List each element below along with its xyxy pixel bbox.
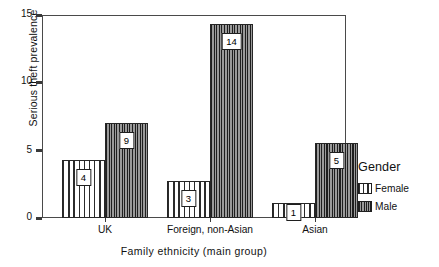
bar-chart: Serious theft prevalence 15 10 5 0 4 9 3… xyxy=(0,0,439,267)
y-tick-label-15: 15 xyxy=(21,8,32,19)
bar-uk-male: 9 xyxy=(105,123,148,218)
x-tick-label-uk: UK xyxy=(98,224,112,235)
y-tick-label-0: 0 xyxy=(26,211,32,222)
bar-value-asian-female: 1 xyxy=(286,204,301,221)
bar-uk-female: 4 xyxy=(62,160,105,218)
y-tick-5: 5 xyxy=(0,151,42,152)
y-tick-15: 15 xyxy=(0,15,42,16)
legend-title: Gender xyxy=(358,160,438,174)
bar-asian-female: 1 xyxy=(272,203,315,218)
bar-value-asian-male: 5 xyxy=(329,152,344,169)
x-axis-label: Family ethnicity (main group) xyxy=(42,245,346,257)
legend-item-male: Male xyxy=(358,201,438,212)
bar-value-uk-female: 4 xyxy=(76,169,91,186)
x-tick-asian xyxy=(315,218,316,222)
y-tick-10: 10 xyxy=(0,82,42,83)
bar-foreign-male: 14 xyxy=(210,24,253,218)
legend-label-female: Female xyxy=(375,183,409,194)
bar-foreign-female: 3 xyxy=(167,181,210,218)
bar-value-foreign-male: 14 xyxy=(221,33,242,50)
legend: Gender Female Male xyxy=(358,160,438,219)
x-tick-foreign xyxy=(210,218,211,222)
bar-value-uk-male: 9 xyxy=(119,132,134,149)
x-tick-uk xyxy=(105,218,106,222)
x-tick-label-asian: Asian xyxy=(302,224,327,235)
x-tick-label-foreign: Foreign, non-Asian xyxy=(167,224,253,235)
legend-label-male: Male xyxy=(375,201,397,212)
legend-item-female: Female xyxy=(358,183,438,194)
legend-swatch-male-icon xyxy=(358,201,372,212)
y-tick-label-5: 5 xyxy=(26,144,32,155)
y-tick-0: 0 xyxy=(0,218,42,219)
y-tick-label-10: 10 xyxy=(21,75,32,86)
bar-value-foreign-female: 3 xyxy=(181,190,196,207)
legend-swatch-female-icon xyxy=(358,183,372,194)
bar-asian-male: 5 xyxy=(315,143,358,218)
